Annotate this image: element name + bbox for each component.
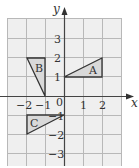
- y-tick-1: 1: [54, 71, 61, 84]
- y-tick-minus-3: −3: [48, 148, 64, 161]
- x-tick-minus-2: −2: [16, 99, 32, 112]
- x-tick-minus-1: −1: [35, 99, 51, 112]
- y-tick-minus-2: −2: [48, 129, 64, 142]
- y-tick-2: 2: [54, 52, 61, 65]
- x-tick-0: 0: [56, 96, 63, 109]
- triangle-a-label: A: [88, 64, 98, 77]
- x-tick-2: 2: [99, 99, 106, 112]
- y-tick-3: 3: [54, 33, 61, 46]
- x-tick-1: 1: [80, 99, 87, 112]
- x-axis-label: x: [131, 96, 138, 110]
- triangle-c-label: C: [30, 117, 38, 130]
- y-axis-arrow-icon: [62, 7, 68, 15]
- triangle-b-label: B: [35, 62, 43, 75]
- coordinate-grid-diagram: y x 3 2 1 −1 −2 −3 −2 −1 0 1 2 A B C: [0, 0, 139, 168]
- y-axis-label: y: [52, 2, 60, 16]
